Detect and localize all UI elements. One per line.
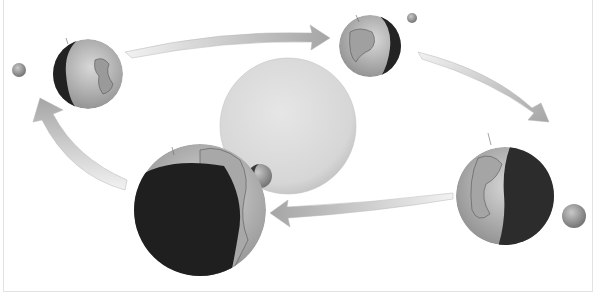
moon-right bbox=[562, 204, 586, 228]
earth-right bbox=[456, 147, 560, 247]
moon-top bbox=[407, 13, 417, 23]
earth-right-axis bbox=[488, 133, 491, 145]
arrow-top bbox=[125, 25, 330, 58]
earth-left-axis bbox=[66, 38, 68, 44]
arrow-right bbox=[418, 52, 549, 122]
orbit-diagram bbox=[0, 0, 598, 295]
earth-top bbox=[339, 15, 402, 78]
arrow-left bbox=[33, 98, 127, 190]
arrow-bottom bbox=[270, 193, 453, 227]
earth-left bbox=[50, 38, 123, 110]
earth-front bbox=[134, 144, 266, 280]
moon-left bbox=[12, 63, 26, 77]
